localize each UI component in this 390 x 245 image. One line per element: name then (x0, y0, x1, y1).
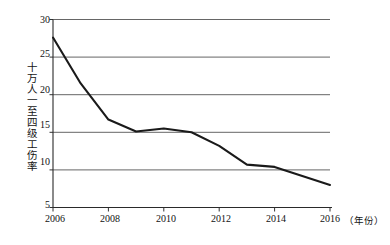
x-tick-marks-group (53, 208, 330, 212)
y-tick-label-15: 15 (24, 119, 50, 130)
y-tick-label-10: 10 (24, 156, 50, 167)
line-chart-figure: 十万人一至四级工伤率 30 25 20 15 10 5 2006 2008 20… (0, 0, 390, 245)
data-series-line (53, 38, 330, 185)
y-tick-label-25: 25 (24, 48, 50, 59)
x-tick-label-2012: 2012 (198, 213, 244, 224)
gridlines-group (53, 20, 330, 208)
x-axis-unit-label: （年份） (344, 213, 384, 227)
x-tick-label-2014: 2014 (253, 213, 299, 224)
y-tick-label-20: 20 (24, 84, 50, 95)
x-tick-label-2010: 2010 (143, 213, 189, 224)
x-tick-label-2008: 2008 (87, 213, 133, 224)
y-tick-label-5: 5 (24, 199, 50, 210)
plot-area (0, 0, 390, 245)
x-tick-label-2006: 2006 (32, 213, 78, 224)
y-tick-label-30: 30 (24, 14, 50, 25)
